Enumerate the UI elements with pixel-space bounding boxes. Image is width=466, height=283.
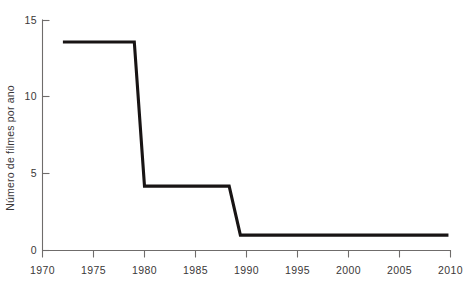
- x-tick-label-1970: 1970: [30, 264, 55, 276]
- y-tick-label-10: 10: [25, 90, 37, 102]
- chart-container: 15 10 5 0 1970 1975 1980 1985 1990 1995 …: [0, 0, 466, 283]
- y-tick-label-5: 5: [31, 167, 37, 179]
- y-axis-title: Número de filmes por ano: [4, 85, 16, 211]
- x-tick-label-2005: 2005: [387, 264, 412, 276]
- x-tick-label-1985: 1985: [183, 264, 208, 276]
- x-tick-label-2010: 2010: [438, 264, 463, 276]
- series-line-filmes: [63, 42, 449, 235]
- y-tick-label-15: 15: [25, 14, 37, 26]
- x-tick-label-2000: 2000: [336, 264, 361, 276]
- x-tick-label-1995: 1995: [285, 264, 310, 276]
- x-tick-label-1975: 1975: [81, 264, 106, 276]
- x-tick-label-1990: 1990: [234, 264, 259, 276]
- line-chart: 15 10 5 0 1970 1975 1980 1985 1990 1995 …: [0, 0, 466, 283]
- x-tick-label-1980: 1980: [132, 264, 157, 276]
- y-tick-label-0: 0: [31, 244, 37, 256]
